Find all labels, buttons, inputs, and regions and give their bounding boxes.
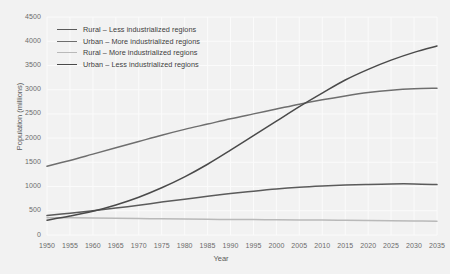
legend-label: Urban – More industrialized regions <box>83 37 200 46</box>
legend-color-swatch <box>57 52 77 53</box>
legend-item[interactable]: Urban – Less industrialized regions <box>57 59 200 71</box>
legend-label: Rural – Less industrialized regions <box>83 25 196 34</box>
legend-item[interactable]: Urban – More industrialized regions <box>57 36 200 48</box>
legend-color-swatch <box>57 64 77 65</box>
legend-item[interactable]: Rural – Less industrialized regions <box>57 24 200 36</box>
y-axis-title: Population (millions) <box>15 57 24 177</box>
legend-color-swatch <box>57 41 77 42</box>
chart-legend: Rural – Less industrialized regionsUrban… <box>57 24 200 70</box>
legend-label: Urban – Less industrialized regions <box>83 60 199 69</box>
x-axis-title: Year <box>0 254 442 263</box>
legend-color-swatch <box>57 29 77 30</box>
legend-label: Rural – More industrialized regions <box>83 48 198 57</box>
legend-item[interactable]: Rural – More industrialized regions <box>57 47 200 59</box>
